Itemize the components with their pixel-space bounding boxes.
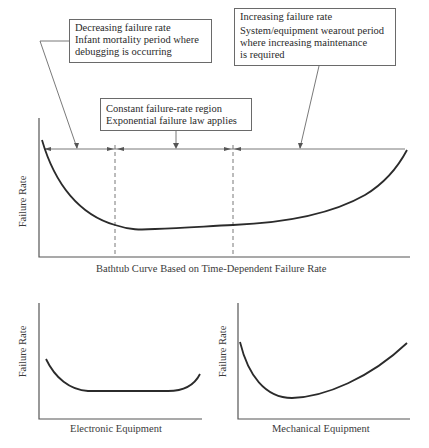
arrow-head-icon bbox=[74, 143, 79, 149]
electronic-chart-caption: Electronic Equipment bbox=[70, 423, 162, 434]
increasing-leader-arrow bbox=[300, 66, 319, 148]
electronic-chart-y-label: Failure Rate bbox=[17, 322, 28, 382]
callout-line: where increasing maintenance bbox=[240, 37, 390, 49]
callout-line: is required bbox=[240, 49, 390, 61]
main-chart-y-label: Failure Rate bbox=[17, 172, 28, 232]
callout-constant-failure-rate: Constant failure-rate region Exponential… bbox=[100, 98, 252, 131]
electronic-curve bbox=[46, 359, 200, 391]
callout-decreasing-failure-rate: Decreasing failure rate Infant mortality… bbox=[69, 19, 212, 63]
main-chart-caption: Bathtub Curve Based on Time-Dependent Fa… bbox=[96, 263, 326, 274]
diagram-canvas bbox=[0, 0, 429, 448]
main-chart-axes bbox=[39, 118, 410, 257]
callout-line: debugging is occurring bbox=[75, 46, 206, 58]
mechanical-chart-caption: Mechanical Equipment bbox=[272, 423, 370, 434]
arrow-head-icon bbox=[173, 143, 179, 149]
callout-line: System/equipment wearout period bbox=[240, 25, 390, 37]
callout-line: Constant failure-rate region bbox=[106, 103, 246, 115]
mechanical-chart-y-label: Failure Rate bbox=[217, 322, 228, 382]
arrow-right-icon bbox=[107, 147, 114, 151]
arrow-right-icon bbox=[224, 147, 231, 151]
arrow-left-icon bbox=[234, 147, 241, 151]
callout-line: Decreasing failure rate bbox=[75, 22, 206, 34]
arrow-head-icon bbox=[298, 143, 303, 149]
bathtub-curve bbox=[42, 140, 407, 230]
callout-increasing-failure-rate: Increasing failure rate System/equipment… bbox=[234, 8, 396, 66]
arrow-left-icon bbox=[117, 147, 124, 151]
callout-line: Infant mortality period where bbox=[75, 34, 206, 46]
callout-line: Exponential failure law applies bbox=[106, 115, 246, 127]
callout-line: Increasing failure rate bbox=[240, 11, 390, 23]
electronic-chart-axes bbox=[39, 303, 202, 419]
mechanical-curve bbox=[240, 342, 407, 398]
